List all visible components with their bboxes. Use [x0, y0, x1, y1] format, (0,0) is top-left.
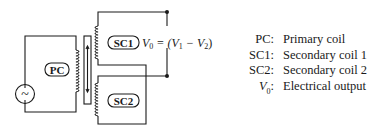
legend-key: V0:	[228, 79, 283, 99]
legend-key: PC:	[228, 32, 283, 48]
sc2-coil-icon	[95, 83, 98, 116]
legend: PC: Primary coil SC1: Secondary coil 1 S…	[228, 32, 367, 99]
sc1-wire-bottom	[98, 59, 146, 76]
legend-item: SC1: Secondary coil 1	[228, 48, 367, 64]
sc1-wire-top	[98, 12, 167, 26]
primary-wire-bottom	[25, 92, 76, 112]
output-terminal-bottom	[165, 74, 169, 78]
sc2-wire-top	[98, 76, 167, 83]
legend-value: Primary coil	[283, 32, 345, 48]
output-terminal-top	[165, 10, 169, 14]
legend-key: SC2:	[228, 63, 283, 79]
ac-source-symbol: ~	[21, 87, 29, 102]
pc-label: PC	[50, 64, 65, 76]
primary-coil-icon	[76, 50, 79, 92]
legend-value: Secondary coil 1	[283, 48, 367, 64]
sc1-coil-icon	[95, 26, 98, 59]
sc2-label: SC2	[114, 95, 134, 107]
legend-item: PC: Primary coil	[228, 32, 367, 48]
legend-item: SC2: Secondary coil 2	[228, 63, 367, 79]
sc1-label: SC1	[114, 37, 134, 49]
legend-value: Secondary coil 2	[283, 63, 367, 79]
legend-item: V0: Electrical output	[228, 79, 367, 99]
legend-value: Electrical output	[283, 79, 366, 99]
primary-wire-top	[25, 36, 76, 88]
transformer-circuit-diagram: ~ PC SC1 SC2 V0 = (V1 − V2)	[0, 0, 230, 129]
legend-key: SC1:	[228, 48, 283, 64]
output-equation: V0 = (V1 − V2)	[142, 36, 212, 51]
